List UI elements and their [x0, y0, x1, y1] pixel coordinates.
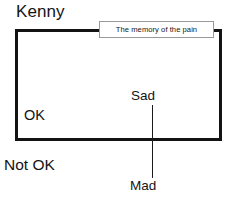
ok-zone-rectangle — [15, 29, 222, 141]
diagram-canvas: Kenny The memory of the pain OK Not OK S… — [0, 0, 232, 209]
mad-label: Mad — [130, 178, 156, 194]
page-title: Kenny — [16, 2, 65, 22]
sad-label: Sad — [131, 88, 155, 104]
memory-callout-label: The memory of the pain — [116, 25, 197, 34]
ok-label: OK — [24, 106, 45, 124]
memory-callout-box: The memory of the pain — [99, 21, 214, 38]
not-ok-label: Not OK — [4, 155, 55, 174]
sad-mad-connector-line — [152, 105, 153, 178]
